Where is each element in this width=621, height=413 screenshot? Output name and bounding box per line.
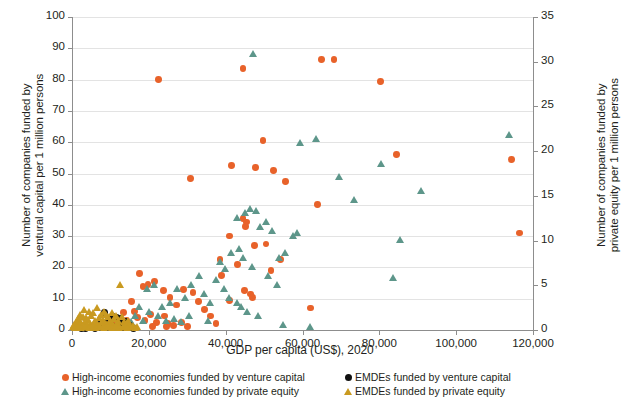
- data-point-circle: [136, 270, 143, 277]
- data-point-triangle: [143, 285, 151, 292]
- data-point-circle: [228, 162, 235, 169]
- x-tick: [533, 331, 534, 335]
- gridline: [72, 205, 533, 206]
- left-tick-label: 50: [32, 166, 65, 178]
- x-tick: [456, 331, 457, 335]
- data-point-circle: [282, 178, 289, 185]
- data-point-triangle: [204, 317, 212, 324]
- data-point-circle: [393, 151, 400, 158]
- data-point-triangle: [249, 50, 257, 57]
- data-point-triangle: [235, 245, 243, 252]
- data-point-triangle: [195, 272, 203, 279]
- data-point-circle: [307, 305, 314, 312]
- data-point-circle: [252, 164, 259, 171]
- gridline: [72, 17, 533, 18]
- right-tick: [534, 62, 538, 63]
- data-point-triangle: [377, 160, 385, 167]
- data-point-circle: [201, 306, 208, 313]
- left-tick: [68, 299, 72, 300]
- orange-circle-icon: [58, 374, 72, 381]
- data-point-triangle: [187, 281, 195, 288]
- left-tick-label: 40: [32, 197, 65, 209]
- left-tick-label: 70: [32, 103, 65, 115]
- left-tick-label: 0: [32, 322, 65, 334]
- data-point-triangle: [200, 290, 208, 297]
- data-point-triangle: [417, 187, 425, 194]
- right-tick: [534, 330, 538, 331]
- legend-label: High-income economies funded by private …: [72, 384, 299, 398]
- data-point-circle: [242, 223, 249, 230]
- left-tick: [68, 48, 72, 49]
- left-tick: [68, 174, 72, 175]
- legend-item-high-income-pe: High-income economies funded by private …: [58, 384, 341, 398]
- x-tick-label: 40,000: [186, 337, 266, 349]
- gridline: [72, 236, 533, 237]
- data-point-triangle: [206, 299, 214, 306]
- ochre-triangle-icon: [341, 388, 355, 395]
- right-tick-label: 25: [541, 98, 573, 110]
- data-point-circle: [213, 320, 220, 327]
- data-point-triangle: [268, 227, 276, 234]
- right-tick: [534, 285, 538, 286]
- data-point-circle: [173, 302, 180, 309]
- data-point-triangle: [173, 285, 181, 292]
- right-tick-label: 15: [541, 188, 573, 200]
- data-point-triangle: [264, 272, 272, 279]
- left-tick-label: 80: [32, 72, 65, 84]
- left-tick: [68, 267, 72, 268]
- data-point-triangle: [150, 281, 158, 288]
- data-point-triangle: [350, 196, 358, 203]
- legend-item-high-income-vc: High-income economies funded by venture …: [58, 370, 341, 384]
- data-point-circle: [251, 242, 258, 249]
- right-tick: [534, 196, 538, 197]
- data-point-triangle: [396, 236, 404, 243]
- data-point-triangle: [293, 229, 301, 236]
- x-tick-label: 80,000: [339, 337, 419, 349]
- left-axis-line: [72, 17, 73, 330]
- left-tick: [68, 236, 72, 237]
- data-point-triangle: [116, 281, 124, 288]
- data-point-circle: [190, 289, 197, 296]
- x-tick-label: 60,000: [263, 337, 343, 349]
- data-point-circle: [508, 156, 515, 163]
- data-point-triangle: [221, 265, 229, 272]
- data-point-triangle: [158, 303, 166, 310]
- data-point-triangle: [279, 321, 287, 328]
- data-point-triangle: [273, 281, 281, 288]
- data-point-triangle: [212, 276, 220, 283]
- data-point-circle: [240, 65, 247, 72]
- left-tick: [68, 142, 72, 143]
- data-point-triangle: [220, 285, 228, 292]
- data-point-circle: [128, 298, 135, 305]
- x-tick-label: 120,000: [493, 337, 573, 349]
- x-tick-label: 100,000: [416, 337, 496, 349]
- data-point-circle: [270, 167, 277, 174]
- data-point-triangle: [177, 318, 185, 325]
- legend-item-emde-vc: EMDEs funded by venture capital: [341, 370, 511, 384]
- x-tick: [149, 331, 150, 335]
- data-point-circle: [377, 78, 384, 85]
- gridline: [72, 111, 533, 112]
- data-point-triangle: [145, 308, 153, 315]
- x-tick: [303, 331, 304, 335]
- data-point-circle: [314, 201, 321, 208]
- left-tick-label: 60: [32, 134, 65, 146]
- left-tick: [68, 205, 72, 206]
- gridline: [72, 299, 533, 300]
- x-tick-label: 20,000: [109, 337, 189, 349]
- data-point-triangle: [185, 312, 193, 319]
- teal-triangle-icon: [58, 388, 72, 395]
- left-tick-label: 10: [32, 291, 65, 303]
- x-tick-label: 0: [32, 337, 112, 349]
- x-tick: [379, 331, 380, 335]
- right-tick-label: 0: [541, 322, 573, 334]
- gridline: [72, 80, 533, 81]
- data-point-circle: [195, 298, 202, 305]
- right-tick-label: 5: [541, 277, 573, 289]
- data-point-triangle: [248, 263, 256, 270]
- right-tick: [534, 17, 538, 18]
- data-point-circle: [331, 56, 338, 63]
- left-tick: [68, 17, 72, 18]
- data-point-triangle: [335, 173, 343, 180]
